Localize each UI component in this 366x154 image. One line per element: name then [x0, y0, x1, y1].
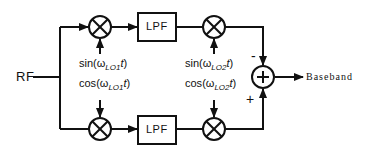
lo2-sin-label: sin(ωLO2t): [185, 57, 233, 72]
bottom-mixer2-to-summer-arrow: [225, 89, 263, 129]
mixer-top-2: [203, 16, 225, 38]
lo2-cos-label: cos(ωLO2t): [185, 77, 236, 92]
summer-minus-sign: -: [251, 48, 256, 64]
mixer-bottom-2: [203, 118, 225, 140]
mixer-bottom-1: [89, 118, 111, 140]
summer-node: [252, 66, 274, 88]
lo1-cos-label: cos(ωLO1t): [79, 77, 130, 92]
mixer-top-1: [89, 16, 111, 38]
lo1-sin-label: sin(ωLO1t): [79, 57, 127, 72]
lpf-top-label: LPF: [146, 20, 168, 32]
lpf-bottom-label: LPF: [146, 123, 168, 135]
rf-input-label: RF: [16, 69, 34, 84]
baseband-output-label: Baseband: [306, 71, 353, 82]
summer-plus-sign: +: [246, 91, 254, 107]
